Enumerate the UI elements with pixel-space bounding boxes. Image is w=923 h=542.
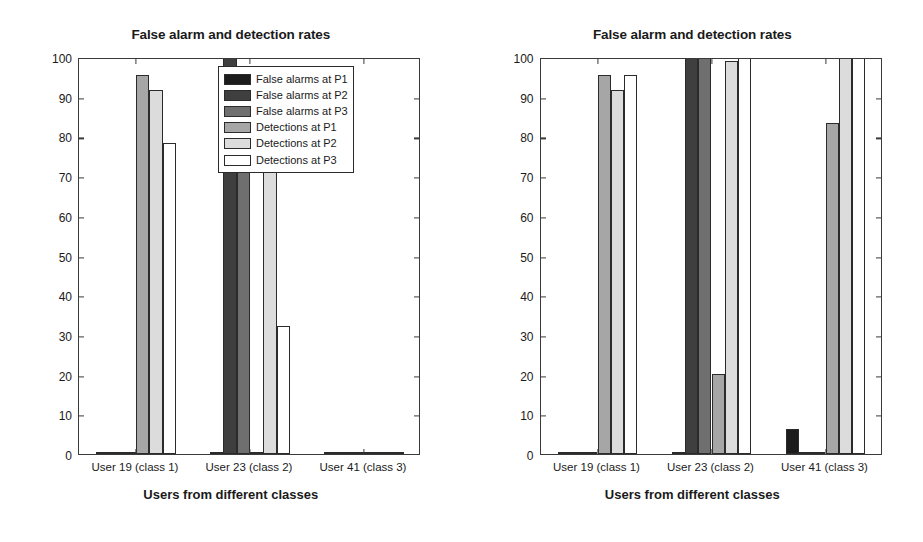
y-tick-mark (541, 257, 546, 258)
bar (685, 59, 698, 454)
bar (611, 90, 624, 454)
legend-row: Detections at P2 (224, 136, 348, 152)
chart-panel-left: False alarm and detection ratesPercentag… (0, 0, 462, 542)
x-tick-mark (711, 449, 712, 454)
legend-row: False alarms at P3 (224, 103, 348, 119)
x-tick-mark (825, 449, 826, 454)
y-tick-label: 100 (513, 52, 533, 66)
x-tick-label-group-2: User 23 (class 2) (667, 461, 754, 473)
y-tick-mark (541, 336, 546, 337)
x-tick-mark (711, 59, 712, 64)
y-tick-mark (876, 98, 881, 99)
bar (96, 452, 109, 454)
y-tick-label: 90 (520, 92, 533, 106)
chart-panel-right: False alarm and detection ratesPercentag… (462, 0, 923, 542)
y-tick-mark (876, 138, 881, 139)
y-tick-mark (79, 297, 84, 298)
legend-swatch-5 (224, 138, 251, 149)
y-tick-mark (414, 336, 419, 337)
x-tick-mark (363, 59, 364, 64)
x-axis-label: Users from different classes (0, 487, 462, 502)
bar (163, 143, 176, 454)
legend-swatch-4 (224, 122, 251, 133)
bar (672, 452, 685, 454)
x-tick-mark (597, 449, 598, 454)
legend-label: False alarms at P3 (256, 106, 348, 117)
legend-swatch-3 (224, 106, 251, 117)
y-tick-mark (876, 178, 881, 179)
bar (136, 75, 149, 454)
bar (391, 452, 404, 454)
x-tick-mark (135, 59, 136, 64)
y-tick-label: 60 (520, 211, 533, 225)
y-tick-label: 0 (527, 449, 534, 463)
bar (839, 59, 852, 454)
y-tick-label: 60 (59, 211, 72, 225)
x-tick-label-group-3: User 41 (class 3) (781, 461, 868, 473)
legend-label: False alarms at P1 (256, 74, 348, 85)
bar (624, 75, 637, 454)
x-tick-label-group-1: User 19 (class 1) (92, 461, 179, 473)
y-tick-mark (876, 376, 881, 377)
bar (277, 326, 290, 454)
y-tick-label: 10 (59, 409, 72, 423)
y-tick-mark (541, 217, 546, 218)
y-tick-label: 100 (52, 52, 72, 66)
y-tick-mark (414, 217, 419, 218)
x-tick-mark (363, 449, 364, 454)
y-tick-mark (541, 416, 546, 417)
y-tick-mark (79, 98, 84, 99)
y-tick-label: 70 (520, 171, 533, 185)
bar (571, 452, 584, 454)
y-tick-label: 90 (59, 92, 72, 106)
y-tick-label: 40 (520, 290, 533, 304)
y-tick-mark (541, 138, 546, 139)
y-tick-label: 0 (65, 449, 72, 463)
bar (364, 452, 377, 454)
legend-row: Detections at P3 (224, 152, 348, 168)
legend-label: Detections at P2 (256, 138, 337, 149)
legend-row: False alarms at P1 (224, 71, 348, 87)
y-tick-label: 30 (520, 330, 533, 344)
y-tick-mark (414, 257, 419, 258)
bar (109, 452, 122, 454)
bar (210, 452, 223, 454)
chart-title: False alarm and detection rates (0, 27, 462, 42)
y-tick-label: 50 (520, 251, 533, 265)
bar (263, 160, 276, 454)
y-tick-mark (79, 138, 84, 139)
x-tick-label-group-3: User 41 (class 3) (320, 461, 407, 473)
y-tick-mark (876, 416, 881, 417)
legend-label: Detections at P3 (256, 155, 337, 166)
bar (558, 452, 571, 454)
y-tick-mark (414, 178, 419, 179)
y-tick-mark (414, 416, 419, 417)
y-tick-label: 20 (520, 370, 533, 384)
y-tick-mark (541, 178, 546, 179)
y-tick-label: 40 (59, 290, 72, 304)
plot-area: 0102030405060708090100 (540, 58, 882, 455)
bar (725, 61, 738, 454)
bar (584, 452, 597, 454)
bar (351, 452, 364, 454)
chart-legend: False alarms at P1False alarms at P2Fals… (218, 66, 354, 173)
plot-inner (541, 59, 881, 454)
y-tick-label: 80 (520, 131, 533, 145)
legend-swatch-1 (224, 74, 251, 85)
y-tick-mark (876, 217, 881, 218)
chart-title: False alarm and detection rates (462, 27, 923, 42)
legend-row: False alarms at P2 (224, 87, 348, 103)
bar (324, 452, 337, 454)
y-tick-label: 80 (59, 131, 72, 145)
bar (698, 59, 711, 454)
y-tick-mark (876, 297, 881, 298)
y-tick-mark (79, 376, 84, 377)
x-tick-mark (249, 449, 250, 454)
x-tick-mark (249, 59, 250, 64)
y-tick-mark (79, 336, 84, 337)
legend-label: False alarms at P2 (256, 90, 348, 101)
y-tick-mark (79, 217, 84, 218)
x-tick-mark (597, 59, 598, 64)
bar (852, 59, 865, 454)
x-tick-mark (135, 449, 136, 454)
